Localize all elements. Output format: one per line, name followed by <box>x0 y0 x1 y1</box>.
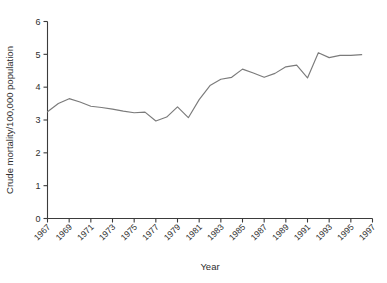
chart-figure: 0123456196719691971197319751977197919811… <box>0 0 387 283</box>
x-axis-tick-label: 1975 <box>118 222 139 243</box>
x-axis-tick-label: 1983 <box>205 222 226 243</box>
x-axis-tick-label: 1997 <box>357 222 378 243</box>
y-axis-tick-label: 4 <box>35 82 40 92</box>
x-axis-title: Year <box>200 261 219 272</box>
x-axis-tick-label: 1977 <box>140 222 161 243</box>
x-axis-tick-label: 1967 <box>32 222 53 243</box>
x-axis-tick-label: 1993 <box>313 222 334 243</box>
x-axis-tick-label: 1973 <box>97 222 118 243</box>
x-axis-tick-label: 1987 <box>248 222 269 243</box>
y-axis-tick-label: 0 <box>35 214 40 224</box>
x-axis-tick-label: 1981 <box>183 222 204 243</box>
data-series-line <box>48 53 362 121</box>
y-axis-tick-label: 3 <box>35 115 40 125</box>
x-axis-tick-label: 1971 <box>75 222 96 243</box>
y-axis-title: Crude mortality/100,000 population <box>4 46 15 194</box>
y-axis-tick-label: 2 <box>35 148 40 158</box>
line-chart: 0123456196719691971197319751977197919811… <box>0 0 387 283</box>
x-axis-tick-label: 1991 <box>292 222 313 243</box>
y-axis-tick-label: 5 <box>35 50 40 60</box>
y-axis-tick-label: 1 <box>35 181 40 191</box>
x-axis-tick-label: 1969 <box>53 222 74 243</box>
x-axis-tick-label: 1995 <box>335 222 356 243</box>
x-axis-tick-label: 1979 <box>162 222 183 243</box>
x-axis-tick-label: 1989 <box>270 222 291 243</box>
x-axis-tick-label: 1985 <box>227 222 248 243</box>
y-axis-tick-label: 6 <box>35 17 40 27</box>
